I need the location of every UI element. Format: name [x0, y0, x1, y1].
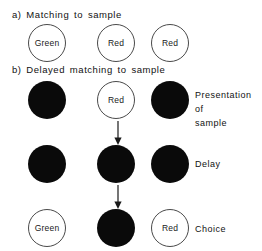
- stimulus-a-3-label: Red: [162, 39, 178, 48]
- stimulus-b3-1: Green: [28, 209, 66, 247]
- stimulus-b3-1-label: Green: [35, 224, 60, 233]
- phase-label-delay: Delay: [195, 157, 221, 171]
- arrow-delay-to-choice-icon: [112, 185, 124, 209]
- stimulus-a-1-label: Green: [35, 39, 60, 48]
- stimulus-b1-1: [28, 81, 66, 119]
- stimulus-b2-3: [151, 145, 189, 183]
- stimulus-b1-2-label: Red: [108, 96, 124, 105]
- phase-label-choice: Choice: [195, 222, 226, 236]
- stimulus-b2-1: [28, 145, 66, 183]
- phase-label-presentation: Presentation of sample: [195, 88, 262, 130]
- stimulus-b1-2: Red: [97, 81, 135, 119]
- stimulus-a-1: Green: [28, 24, 66, 62]
- stimulus-a-2-label: Red: [108, 39, 124, 48]
- stimulus-b2-2: [97, 145, 135, 183]
- section-b-title: b) Delayed matching to sample: [12, 64, 165, 75]
- matching-to-sample-figure: a) Matching to sample Green Red Red b) D…: [0, 0, 262, 251]
- stimulus-a-2: Red: [97, 24, 135, 62]
- arrow-presentation-to-delay-icon: [112, 121, 124, 145]
- stimulus-b3-3-label: Red: [162, 224, 178, 233]
- stimulus-a-3: Red: [151, 24, 189, 62]
- section-a-title: a) Matching to sample: [12, 9, 122, 20]
- stimulus-b3-2: [97, 209, 135, 247]
- stimulus-b1-3: [151, 81, 189, 119]
- stimulus-b3-3: Red: [151, 209, 189, 247]
